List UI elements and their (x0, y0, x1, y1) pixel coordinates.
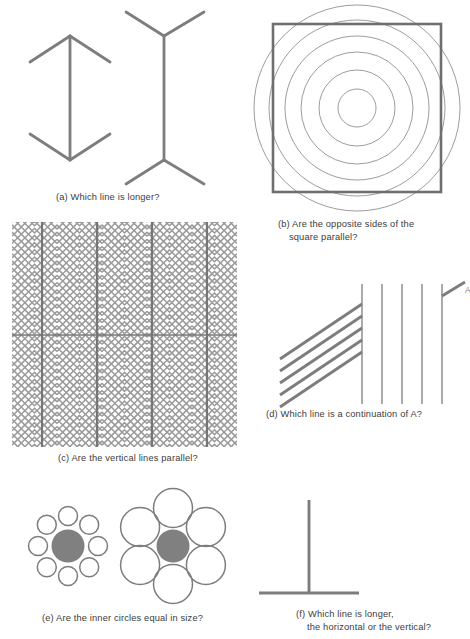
circle-4 (285, 36, 429, 180)
concentric-circles (254, 5, 460, 211)
surround-circle (37, 515, 56, 534)
caption-f-line2: the horizontal or the vertical? (296, 621, 431, 634)
oblique-line-4 (280, 340, 362, 395)
oblique-line-3 (280, 328, 362, 383)
caption-b-line1: (b) Are the opposite sides of the (278, 219, 414, 229)
caption-e: (e) Are the inner circles equal in size? (42, 612, 203, 625)
surround-circle (59, 507, 78, 526)
chevron-up (102, 466, 147, 489)
chevron-down (12, 463, 57, 486)
chevron-down (192, 448, 237, 471)
caption-a: (a) Which line is longer? (56, 191, 159, 204)
caption-f-line1: (f) Which line is longer, (296, 609, 394, 619)
poggendorff-artwork: A (252, 274, 467, 406)
inner-target-circle (52, 530, 85, 563)
caption-b-line2: square parallel? (278, 231, 414, 244)
chevron-down (12, 448, 57, 471)
panel-muller-lyer (8, 4, 228, 219)
caption-d: (d) Which line is a continuation of A? (266, 408, 422, 421)
pointer-segment-a (442, 282, 465, 296)
chevron-down (147, 463, 192, 486)
chevron-up (192, 451, 237, 474)
ebbinghaus-artwork (10, 486, 245, 606)
chevron-up (57, 466, 102, 489)
circle-1 (338, 89, 376, 127)
fin-bottom-left-inward (30, 134, 70, 160)
chevron-up (12, 451, 57, 474)
chevron-down (57, 463, 102, 486)
surround-circle (121, 508, 160, 547)
chevron-up (12, 459, 57, 482)
figure-sheet: (a) Which line is longer? (b) Are the op… (0, 0, 470, 639)
caption-c: (c) Are the vertical lines parallel? (58, 452, 198, 465)
large-surround-group (121, 489, 226, 604)
vertical-horizontal-artwork (258, 490, 468, 600)
chevron-down (102, 463, 147, 486)
chevron-up (147, 466, 192, 489)
circle-5 (269, 20, 445, 196)
chevron-up (12, 444, 57, 467)
surround-circle (29, 537, 48, 556)
fin-top-right-inward (70, 36, 110, 62)
pointer-label-a: A (465, 285, 470, 295)
circle-3 (301, 52, 413, 164)
inner-target-circle (157, 530, 190, 563)
vertical-line-bundle (362, 284, 442, 404)
panel-poggendorff: A (252, 274, 467, 429)
oblique-bundle (280, 304, 362, 407)
caption-f: (f) Which line is longer,the horizontal … (296, 608, 431, 633)
fin-top-right-outward (164, 12, 204, 36)
surround-circle (59, 567, 78, 586)
chevron-up (192, 459, 237, 482)
chevron-down (192, 455, 237, 478)
surround-circle (89, 537, 108, 556)
panel-zollner-herringbone (12, 222, 237, 457)
chevron-down (192, 463, 237, 486)
arrow-outward-figure (126, 12, 204, 184)
herringbone-artwork (12, 222, 237, 447)
chevron-up (192, 444, 237, 467)
fin-bottom-right-inward (70, 134, 110, 160)
surround-circle (80, 515, 99, 534)
arrow-inward-figure (30, 36, 110, 160)
circle-2 (319, 70, 395, 146)
surround-circle (121, 546, 160, 585)
chevron-up (192, 466, 237, 489)
fin-top-left-inward (30, 36, 70, 62)
surround-circle (37, 558, 56, 577)
surround-circle (80, 558, 99, 577)
oblique-line-1 (280, 304, 362, 359)
oblique-line-2 (280, 316, 362, 371)
fin-top-left-outward (126, 12, 164, 36)
fin-bottom-left-outward (126, 160, 164, 184)
chevron-up (12, 466, 57, 489)
small-surround-group (29, 507, 108, 586)
overlay-square (273, 24, 441, 192)
caption-b: (b) Are the opposite sides of thesquare … (278, 218, 414, 243)
ehrenstein-artwork (248, 2, 466, 214)
muller-lyer-artwork (8, 4, 228, 194)
oblique-line-5 (280, 352, 362, 407)
chevron-down (12, 455, 57, 478)
surround-circle (186, 508, 225, 547)
panel-ehrenstein-orbison (248, 2, 466, 254)
fin-bottom-right-outward (164, 160, 204, 184)
